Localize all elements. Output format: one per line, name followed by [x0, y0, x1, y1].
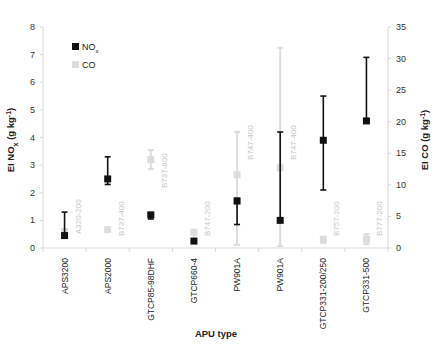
- data-point-co: [104, 226, 111, 233]
- y-tick-label-right: 20: [396, 117, 406, 127]
- x-tick-label: GTCP331-200/250: [318, 258, 328, 330]
- aircraft-annotation: B747-400: [246, 125, 255, 160]
- y-tick-label-left: 3: [30, 160, 35, 170]
- y-tick-label-right: 15: [396, 148, 406, 158]
- aircraft-annotation: B737-400: [117, 201, 126, 236]
- legend: NOxCO: [72, 42, 99, 70]
- data-point-co: [234, 171, 241, 178]
- x-axis-title: APU type: [195, 328, 237, 339]
- x-tick-label: APS3200: [60, 258, 70, 294]
- x-tick-label: GTCP85-98DHF: [146, 258, 156, 321]
- labels: APS3200APS2000GTCP85-98DHFGTCP660-4PW901…: [5, 108, 431, 330]
- data-point-co: [363, 236, 370, 243]
- y-tick-label-left: 0: [30, 243, 35, 253]
- aircraft-annotation: A320-200: [74, 199, 83, 234]
- y-tick-label-right: 5: [396, 211, 401, 221]
- y-tick-label-right: 0: [396, 243, 401, 253]
- y-tick-label-right: 35: [396, 22, 406, 32]
- axes: 01234567805101520253035: [30, 22, 406, 253]
- y-axis-title-left: EI NOx (g kg-1): [5, 108, 19, 173]
- x-tick-label: GTCP331-500: [361, 258, 371, 313]
- data-point-nox: [277, 217, 284, 224]
- data-point-nox: [147, 211, 154, 218]
- y-tick-label-left: 4: [30, 133, 35, 143]
- aircraft-annotation: B747-200: [203, 201, 212, 236]
- chart: 01234567805101520253035 APS3200APS2000GT…: [0, 0, 437, 354]
- x-tick-label: GTCP660-4: [189, 258, 199, 304]
- data-point-nox: [61, 232, 68, 239]
- legend-marker-nox: [72, 43, 79, 50]
- plot-area: [61, 48, 370, 246]
- y-tick-label-left: 7: [30, 50, 35, 60]
- data-point-nox: [363, 117, 370, 124]
- aircraft-annotation: B737-800: [160, 153, 169, 188]
- legend-label-nox: NOx: [82, 42, 99, 54]
- y-tick-label-right: 25: [396, 85, 406, 95]
- data-point-nox: [320, 137, 327, 144]
- x-tick-label: APS2000: [103, 258, 113, 294]
- y-tick-label-left: 2: [30, 188, 35, 198]
- aircraft-annotation: B757-200: [332, 201, 341, 236]
- y-axis-title-right: EI CO (g kg-1): [419, 110, 431, 171]
- x-tick-label: PW901A: [275, 258, 285, 292]
- y-tick-label-left: 8: [30, 22, 35, 32]
- y-tick-label-left: 1: [30, 215, 35, 225]
- x-tick-label: PW901A: [232, 258, 242, 292]
- data-point-nox: [190, 238, 197, 245]
- data-point-co: [320, 236, 327, 243]
- y-tick-label-left: 6: [30, 77, 35, 87]
- aircraft-annotation: B777-200: [375, 201, 384, 236]
- legend-marker-co: [72, 61, 79, 68]
- y-tick-label-left: 5: [30, 105, 35, 115]
- data-point-co: [190, 229, 197, 236]
- data-point-nox: [234, 198, 241, 205]
- data-point-nox: [104, 175, 111, 182]
- legend-label-co: CO: [82, 60, 96, 70]
- y-tick-label-right: 10: [396, 180, 406, 190]
- data-point-co: [147, 156, 154, 163]
- aircraft-annotation: B747-400: [289, 125, 298, 160]
- y-tick-label-right: 30: [396, 54, 406, 64]
